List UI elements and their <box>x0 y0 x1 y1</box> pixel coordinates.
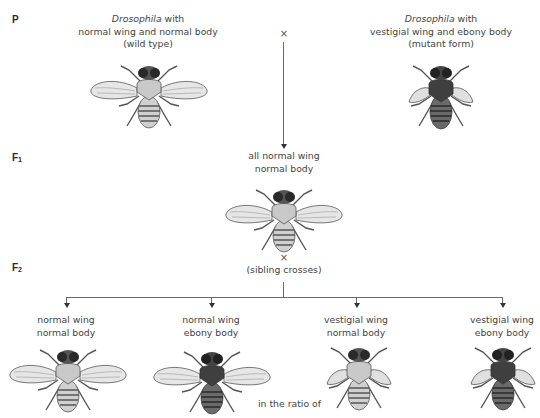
parent-mutant-label: Drosophila with vestigial wing and ebony… <box>370 13 512 51</box>
f2-arrow-2 <box>209 303 215 308</box>
fly-wild-type <box>89 56 209 132</box>
generation-label-p: P <box>12 14 19 25</box>
f2-stem-line <box>283 282 284 297</box>
f2-offspring-label-1: normal wingnormal body <box>37 314 96 339</box>
parent-cross-symbol: × <box>280 28 288 39</box>
sibling-crosses-note: (sibling crosses) <box>246 264 321 277</box>
f2-branch-line <box>66 297 502 298</box>
fly-f1 <box>224 180 344 256</box>
f2-offspring-label-4: vestigial wingebony body <box>470 314 534 339</box>
generation-label-f1: F1 <box>12 152 22 163</box>
fly-f2-vestigial-wing-normal-body <box>306 338 412 414</box>
fly-f2-normal-wing-normal-body <box>8 340 128 416</box>
generation-label-f2: F2 <box>12 262 22 273</box>
f2-arrow-1 <box>64 303 70 308</box>
fly-f2-normal-wing-ebony-body <box>152 342 272 418</box>
fly-mutant <box>388 56 494 136</box>
parent-to-f1-line <box>283 42 284 146</box>
f2-offspring-label-3: vestigial wingnormal body <box>324 314 388 339</box>
ratio-text: in the ratio of <box>258 398 321 409</box>
parent-to-f1-arrow <box>281 144 287 149</box>
f1-cross-symbol: × <box>280 252 288 263</box>
parent-wild-type-label: Drosophila with normal wing and normal b… <box>78 13 217 51</box>
f2-arrow-3 <box>354 303 360 308</box>
f2-offspring-label-2: normal wingebony body <box>182 314 240 339</box>
fly-f2-vestigial-wing-ebony-body <box>450 338 540 414</box>
f1-label: all normal wing normal body <box>248 150 319 175</box>
f2-arrow-4 <box>500 303 506 308</box>
